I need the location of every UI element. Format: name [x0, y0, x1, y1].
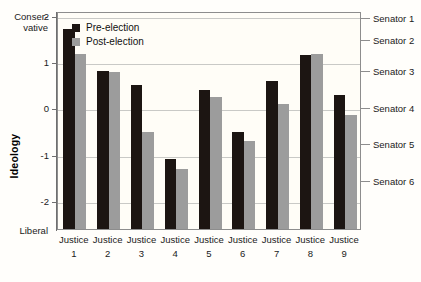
- bar-post-election: [345, 115, 357, 229]
- senator-annotation: Senator 1: [361, 13, 414, 24]
- bar-pre-election: [165, 159, 177, 229]
- senator-annotation: Senator 6: [361, 176, 414, 187]
- y-axis-low-label: Liberal: [2, 225, 48, 236]
- bar-group: [334, 13, 357, 229]
- bar-pre-election: [97, 71, 109, 229]
- legend-item-pre-election: Pre-election: [72, 22, 144, 33]
- y-axis-tick-mark: [52, 202, 56, 203]
- senator-leader-line: [361, 18, 370, 19]
- x-axis-tick-label-line1: Justice: [322, 234, 366, 246]
- bar-post-election: [311, 54, 323, 229]
- x-axis-tick-label: Justice9: [322, 234, 366, 260]
- bar-pre-election: [334, 95, 346, 230]
- y-axis-tick-label: 2: [0, 12, 49, 21]
- senator-leader-line: [361, 108, 370, 109]
- bar-post-election: [109, 72, 121, 229]
- bar-post-election: [75, 54, 87, 229]
- y-axis-tick-mark: [52, 156, 56, 157]
- bar-group: [232, 13, 255, 229]
- bar-post-election: [142, 132, 154, 229]
- senator-label: Senator 6: [373, 176, 414, 187]
- bar-post-election: [176, 169, 188, 229]
- y-axis-tick-mark: [52, 63, 56, 64]
- bar-group: [165, 13, 188, 229]
- bar-group: [266, 13, 289, 229]
- senator-leader-line: [361, 40, 370, 41]
- bar-post-election: [210, 97, 222, 229]
- senator-label: Senator 2: [373, 35, 414, 46]
- senator-annotation: Senator 2: [361, 35, 414, 46]
- y-axis-tick-mark: [52, 17, 56, 18]
- bar-pre-election: [232, 132, 244, 229]
- bar-post-election: [278, 104, 290, 229]
- bar-pre-election: [199, 90, 211, 229]
- bar-pre-election: [300, 55, 312, 229]
- bar-post-election: [244, 141, 256, 229]
- senator-leader-line: [361, 71, 370, 72]
- senator-label: Senator 1: [373, 13, 414, 24]
- senator-leader-line: [361, 144, 370, 145]
- legend-label-pre-election: Pre-election: [86, 22, 139, 33]
- y-axis-tick-label: -2: [0, 197, 49, 206]
- senator-annotation: Senator 5: [361, 139, 414, 150]
- y-axis-tick-label: 0: [0, 104, 49, 113]
- bar-pre-election: [63, 29, 75, 229]
- x-axis-tick-label-line2: 9: [322, 248, 366, 260]
- senator-label: Senator 3: [373, 66, 414, 77]
- y-axis-tick-label: 1: [0, 58, 49, 67]
- y-axis-high-label-line2: vative: [23, 22, 48, 33]
- ideology-bar-chart: Conser- vative Liberal Ideology 210-1-2 …: [0, 0, 421, 282]
- senator-label: Senator 4: [373, 103, 414, 114]
- bar-group: [199, 13, 222, 229]
- bar-group: [300, 13, 323, 229]
- legend-item-post-election: Post-election: [72, 36, 144, 47]
- senator-label: Senator 5: [373, 139, 414, 150]
- legend-swatch-icon-pre-election: [72, 24, 80, 32]
- legend: Pre-election Post-election: [72, 22, 144, 50]
- y-axis-tick-mark: [52, 109, 56, 110]
- bar-pre-election: [266, 81, 278, 229]
- legend-label-post-election: Post-election: [86, 36, 144, 47]
- y-axis-tick-label: -1: [0, 151, 49, 160]
- bar-pre-election: [131, 85, 143, 229]
- senator-annotation: Senator 3: [361, 66, 414, 77]
- senator-annotation: Senator 4: [361, 103, 414, 114]
- legend-swatch-icon-post-election: [72, 38, 80, 46]
- senator-leader-line: [361, 181, 370, 182]
